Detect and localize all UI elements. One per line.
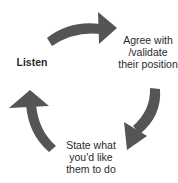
curved-arrow-down-icon [124, 88, 160, 150]
step-label-listen: Listen [12, 56, 52, 68]
cycle-diagram: Listen Agree with /validate their positi… [0, 0, 178, 183]
step-label-state: State what you'd like them to do [58, 139, 124, 175]
curved-arrow-up-icon [9, 90, 56, 152]
curved-arrow-right-icon [47, 12, 117, 46]
step-label-agree: Agree with /validate their position [118, 34, 178, 70]
